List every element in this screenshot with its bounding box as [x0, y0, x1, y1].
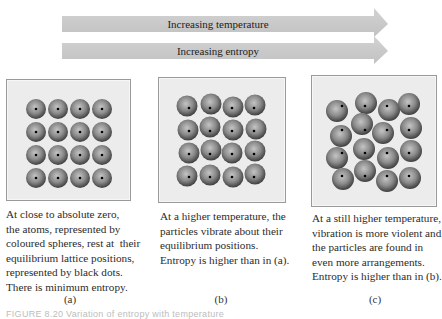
- increasing-temperature-arrow: [0, 0, 439, 70]
- caption-a: At close to absolute zero, the atoms, re…: [6, 207, 151, 295]
- arrow-label-temperature: Increasing temperature: [62, 16, 374, 32]
- caption-b-line: particles vibrate about their: [160, 224, 300, 239]
- figure-caption: FIGURE 8.20 Variation of entropy with te…: [6, 309, 224, 319]
- panel-label-a: (a): [55, 293, 85, 305]
- caption-b-line: At a higher temperature, the: [160, 209, 300, 224]
- caption-c-line: At a still higher temperature,: [312, 211, 442, 226]
- panel-b-lattice: [158, 77, 286, 203]
- atom-lattice-b: [159, 78, 286, 203]
- caption-a-line: represented by black dots.: [6, 265, 151, 280]
- caption-b-line: Entropy is higher than in (a).: [160, 253, 300, 268]
- panel-label-b: (b): [206, 293, 236, 305]
- caption-c-line: even more arrangements.: [312, 255, 442, 270]
- caption-a-line: coloured spheres, rest at their: [6, 236, 151, 251]
- caption-a-line: the atoms, represented by: [6, 222, 151, 237]
- panel-a-lattice: [6, 79, 131, 201]
- panel-label-c: (c): [360, 293, 390, 305]
- caption-c-line: vibration is more violent and: [312, 226, 442, 241]
- atom-lattice-a: [7, 80, 131, 201]
- atom-lattice-c: [312, 76, 437, 207]
- panel-c-lattice: [311, 75, 437, 207]
- caption-b-line: equilibrium positions.: [160, 238, 300, 253]
- caption-c-line: Entropy is higher than in (b).: [312, 269, 442, 284]
- arrow-label-entropy: Increasing entropy: [62, 43, 374, 59]
- caption-a-line: At close to absolute zero,: [6, 207, 151, 222]
- caption-c: At a still higher temperature, vibration…: [312, 211, 442, 284]
- caption-b: At a higher temperature, the particles v…: [160, 209, 300, 267]
- caption-c-line: the particles are found in: [312, 240, 442, 255]
- caption-a-line: equilibrium lattice positions,: [6, 251, 151, 266]
